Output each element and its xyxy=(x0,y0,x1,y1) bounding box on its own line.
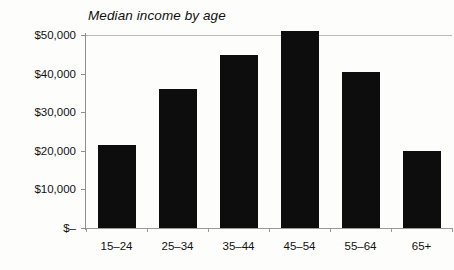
x-axis-tick-label: 15–24 xyxy=(86,240,147,252)
x-axis-tick-label: 35–44 xyxy=(208,240,269,252)
y-axis-tick xyxy=(81,151,86,152)
y-axis-tick-label: $30,000 xyxy=(0,106,76,118)
x-axis-tick xyxy=(86,228,87,232)
bar-chart: Median income by age $50,000$40,000$30,0… xyxy=(0,0,454,270)
x-axis-tick-label: 25–34 xyxy=(147,240,208,252)
plot-area xyxy=(86,35,452,228)
bar xyxy=(159,89,197,228)
y-axis-tick-label: $50,000 xyxy=(0,29,76,41)
x-axis-tick xyxy=(208,228,209,232)
x-axis-tick xyxy=(452,228,453,232)
y-axis-tick xyxy=(81,74,86,75)
bar xyxy=(98,145,136,228)
x-axis-tick xyxy=(147,228,148,232)
y-axis-tick-label: $40,000 xyxy=(0,68,76,80)
y-axis-tick-label: $– xyxy=(0,222,76,234)
y-axis-tick xyxy=(81,112,86,113)
y-axis-tick xyxy=(81,189,86,190)
x-axis-tick-label: 65+ xyxy=(391,240,452,252)
bar xyxy=(281,31,319,228)
y-axis-tick-label: $10,000 xyxy=(0,183,76,195)
bar xyxy=(220,55,258,228)
x-axis-tick-label: 55–64 xyxy=(330,240,391,252)
bar xyxy=(403,151,441,228)
bar xyxy=(342,72,380,228)
y-axis-tick-label: $20,000 xyxy=(0,145,76,157)
x-axis-tick xyxy=(330,228,331,232)
x-axis-tick xyxy=(269,228,270,232)
gridline xyxy=(86,35,452,36)
x-axis-tick xyxy=(391,228,392,232)
x-axis-tick-label: 45–54 xyxy=(269,240,330,252)
